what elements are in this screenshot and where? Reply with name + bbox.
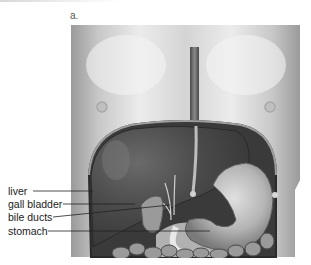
label-gall-bladder: gall bladder <box>8 198 62 210</box>
label-bile-ducts: bile ducts <box>8 211 52 223</box>
label-stomach: stomach <box>8 225 48 237</box>
leader-bile-ducts <box>53 205 170 217</box>
label-liver: liver <box>8 185 27 197</box>
